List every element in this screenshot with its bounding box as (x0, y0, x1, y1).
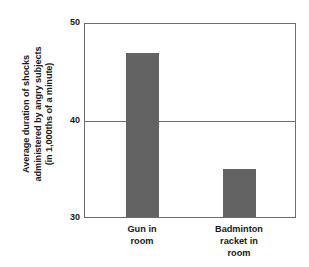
y-axis-tick-label-40: 40 (58, 115, 80, 125)
y-axis-title: Average duration of shocks administered … (26, 14, 50, 214)
y-axis-tick-label-30: 30 (58, 212, 80, 222)
x-label-1-line-1: Badminton (189, 224, 289, 236)
bar-badminton-racket-in-room[interactable] (223, 169, 256, 217)
y-axis-tick-label-50: 50 (58, 17, 80, 27)
plot-area (84, 23, 296, 218)
gridline-40 (85, 121, 295, 122)
bar-gun-in-room[interactable] (126, 53, 159, 217)
x-axis-category-label-badminton-racket-in-room: Badminton racket in room (189, 224, 289, 259)
x-label-0-line-1: Gun in (92, 224, 192, 236)
bar-chart-figure: Average duration of shocks administered … (0, 0, 309, 267)
x-label-0-line-2: room (92, 236, 192, 248)
y-axis-title-text: Average duration of shocks administered … (21, 47, 56, 182)
x-label-1-line-2: racket in (189, 236, 289, 248)
y-axis-title-line-3: (in 1,000ths of a minute) (44, 47, 56, 182)
y-axis-title-line-2: administered by angry subjects (32, 47, 44, 182)
x-label-1-line-3: room (189, 248, 289, 260)
x-axis-category-label-gun-in-room: Gun in room (92, 224, 192, 248)
y-axis-title-line-1: Average duration of shocks (21, 47, 33, 182)
